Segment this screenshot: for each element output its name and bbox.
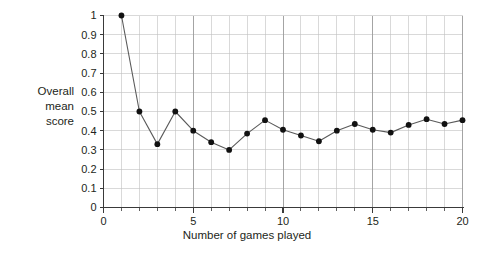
svg-text:0.3: 0.3 (81, 144, 96, 156)
x-axis-ticks (104, 208, 463, 213)
svg-text:5: 5 (190, 215, 196, 227)
chart-figure: Overall mean score 00.10.20.30.40.50.60.… (0, 0, 494, 258)
data-series-markers (119, 13, 466, 153)
line-chart-plot: 00.10.20.30.40.50.60.70.80.91 05101520 (0, 0, 494, 258)
x-axis-tick-labels: 05101520 (100, 215, 468, 227)
svg-text:0.4: 0.4 (81, 125, 96, 137)
svg-text:1: 1 (90, 9, 96, 21)
svg-text:0: 0 (90, 201, 96, 213)
svg-text:0.9: 0.9 (81, 29, 96, 41)
svg-text:10: 10 (277, 215, 289, 227)
y-axis-tick-labels: 00.10.20.30.40.50.60.70.80.91 (81, 9, 96, 213)
svg-text:0.7: 0.7 (81, 67, 96, 79)
x-axis-label: Number of games played (0, 229, 494, 241)
svg-text:0.8: 0.8 (81, 48, 96, 60)
data-series-line (121, 16, 462, 150)
svg-text:0.6: 0.6 (81, 86, 96, 98)
svg-text:0.2: 0.2 (81, 163, 96, 175)
svg-text:20: 20 (456, 215, 468, 227)
svg-text:0: 0 (100, 215, 106, 227)
svg-text:15: 15 (367, 215, 379, 227)
svg-text:0.5: 0.5 (81, 105, 96, 117)
svg-text:0.1: 0.1 (81, 182, 96, 194)
